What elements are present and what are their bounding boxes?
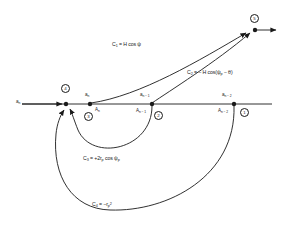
node-2-bottom-label: An − 1 bbox=[136, 109, 146, 114]
branch-c2-label: C2 = − H cos(ψp − θ) bbox=[187, 70, 233, 76]
node-circle-5[interactable]: 5 bbox=[250, 14, 259, 23]
node-3-bottom-label: An bbox=[95, 108, 100, 113]
node-circle-1[interactable]: 1 bbox=[240, 108, 249, 117]
node-2-top-label: an − 1 bbox=[140, 93, 149, 98]
branch-c3-label: C3 = +2rp cos ψp bbox=[83, 156, 120, 162]
node-1-top-label: an − 2 bbox=[222, 93, 231, 98]
branch-c1-label: C1 = H cos ψ bbox=[112, 42, 141, 48]
node-dot-2[interactable] bbox=[150, 102, 154, 106]
branch-c4-label: C4 = −rp2 bbox=[92, 202, 112, 208]
node-circle-3[interactable]: 3 bbox=[84, 112, 93, 121]
branch-c2 bbox=[152, 33, 250, 103]
node-dot-4[interactable] bbox=[64, 102, 68, 106]
node-dot-3[interactable] bbox=[88, 102, 92, 106]
node-3-top-label: an bbox=[85, 93, 89, 98]
node-dot-5[interactable] bbox=[253, 28, 257, 32]
node-circle-2[interactable]: 2 bbox=[154, 111, 163, 120]
input-label: an bbox=[16, 100, 20, 105]
node-dot-1[interactable] bbox=[232, 102, 236, 106]
node-circle-4[interactable]: 4 bbox=[61, 84, 70, 93]
node-1-bottom-label: An − 2 bbox=[218, 109, 228, 114]
